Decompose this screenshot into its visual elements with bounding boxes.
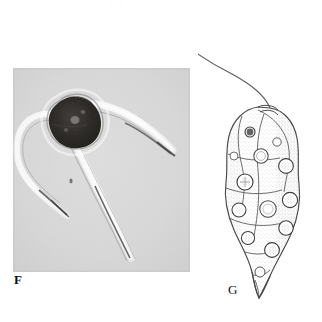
inclusion (230, 152, 238, 160)
inclusion (245, 127, 255, 137)
inclusion (237, 174, 253, 190)
inclusion (241, 231, 254, 244)
panel-g-label: G (228, 283, 237, 296)
flagellum (198, 9, 270, 108)
inclusion (232, 203, 246, 217)
panel-f: F (13, 68, 190, 272)
inclusion (282, 192, 297, 207)
film-grain (13, 68, 190, 272)
inclusion (279, 221, 293, 235)
panel-g: G (198, 4, 320, 304)
inclusion (273, 138, 281, 146)
panel-f-label: F (14, 273, 22, 286)
inclusion (255, 267, 265, 277)
inclusion (279, 159, 294, 174)
inclusion (265, 243, 280, 258)
line-drawing-render (198, 4, 320, 304)
micrograph-render (13, 68, 190, 272)
caption-remnant-text: · · · (110, 0, 210, 5)
inclusion (260, 201, 276, 217)
figure-plate: · · · (0, 0, 322, 322)
inclusion (254, 149, 268, 163)
panel-f-micrograph (13, 68, 190, 272)
